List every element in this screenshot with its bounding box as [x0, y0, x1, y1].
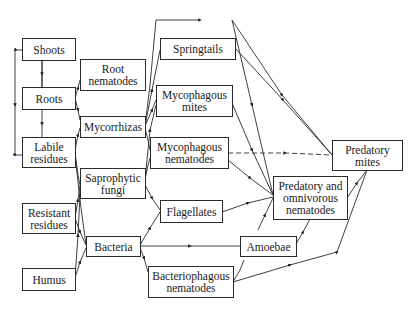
- node-shoots: Shoots: [22, 38, 76, 61]
- node-predatory-mites: Predatory mites: [332, 140, 403, 171]
- node-flagellates: Flagellates: [160, 200, 223, 223]
- node-roots: Roots: [22, 87, 76, 110]
- node-mycophagous-nematodes: Mycophagous nematodes: [150, 137, 229, 169]
- node-mycorrhizas: Mycorrhizas: [80, 116, 146, 138]
- node-root-nematodes: Root nematodes: [80, 59, 146, 91]
- node-amoebae: Amoebae: [240, 236, 297, 257]
- node-predatory-omnivorous-nematodes: Predatory and omnivorous nematodes: [273, 176, 348, 220]
- node-bacteria: Bacteria: [86, 236, 141, 257]
- node-saprophytic-fungi: Saprophytic fungi: [80, 168, 146, 199]
- node-springtails: Springtails: [160, 38, 236, 60]
- node-humus: Humus: [22, 268, 76, 291]
- edge-feedback-loop: [15, 50, 22, 155]
- node-bacteriophagous-nematodes: Bacteriophagous nematodes: [148, 266, 234, 298]
- node-resistant-residues: Resistant residues: [22, 203, 76, 234]
- node-mycophagous-mites: Mycophagous mites: [156, 85, 233, 117]
- node-labile-residues: Labile residues: [22, 137, 76, 168]
